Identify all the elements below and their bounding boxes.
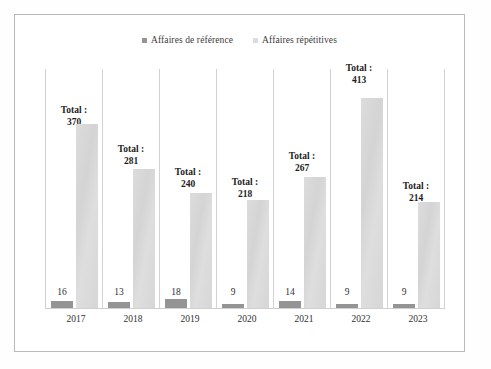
bar-group-2022: Total : 413 404 9 [330, 69, 387, 309]
plot-area: Total : 370 354 16 Total : 281 268 13 [45, 69, 445, 309]
bar-group-2021: Total : 267 253 14 [273, 69, 330, 309]
chart-frame: Affaires de référence Affaires répétitiv… [14, 14, 465, 352]
legend-label-repetitive: Affaires répétitives [262, 35, 337, 45]
xtick-2018: 2018 [102, 314, 164, 324]
bars-2021 [273, 69, 330, 309]
bar-group-2018: Total : 281 268 13 [102, 69, 159, 309]
bar-repetitive-2022[interactable] [361, 98, 383, 309]
bar-group-2019: Total : 240 222 18 [159, 69, 216, 309]
bars-2022 [330, 69, 387, 309]
legend-swatch-reference-icon [142, 38, 147, 43]
bars-2018 [102, 69, 159, 309]
bar-repetitive-2023[interactable] [418, 202, 440, 309]
screenshot-page: Affaires de référence Affaires répétitiv… [0, 0, 491, 369]
bars-2023 [387, 69, 444, 309]
bars-2017 [45, 69, 102, 309]
xtick-2022: 2022 [330, 314, 392, 324]
bars-2020 [216, 69, 273, 309]
legend-item-affaires-de-reference: Affaires de référence [142, 35, 233, 45]
bar-repetitive-2021[interactable] [304, 177, 326, 309]
bar-repetitive-2017[interactable] [76, 124, 98, 309]
xtick-2019: 2019 [159, 314, 221, 324]
bar-repetitive-2020[interactable] [247, 200, 269, 309]
bars-2019 [159, 69, 216, 309]
legend-item-affaires-repetitives: Affaires répétitives [253, 35, 337, 45]
xtick-2021: 2021 [273, 314, 335, 324]
xtick-2017: 2017 [45, 314, 107, 324]
xtick-2023: 2023 [387, 314, 449, 324]
bar-group-2017: Total : 370 354 16 [45, 69, 102, 309]
chart-legend: Affaires de référence Affaires répétitiv… [15, 35, 464, 45]
bar-group-2023: Total : 214 205 9 [387, 69, 444, 309]
xtick-2020: 2020 [216, 314, 278, 324]
legend-label-reference: Affaires de référence [151, 35, 233, 45]
bar-repetitive-2018[interactable] [133, 169, 155, 309]
bar-repetitive-2019[interactable] [190, 193, 212, 309]
axis-baseline [45, 308, 445, 309]
legend-swatch-repetitive-icon [253, 38, 258, 43]
bar-group-2020: Total : 218 209 9 [216, 69, 273, 309]
